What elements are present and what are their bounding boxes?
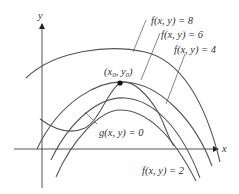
leader-f-8 bbox=[133, 20, 146, 52]
level-curve-f-6 bbox=[37, 82, 212, 166]
y-axis-label: y bbox=[37, 10, 43, 21]
label-g: g(x, y) = 0 bbox=[99, 127, 144, 139]
leader-f-4 bbox=[166, 54, 185, 104]
label-f-6: f(x, y) = 6 bbox=[161, 29, 204, 41]
label-f-8: f(x, y) = 8 bbox=[151, 15, 194, 27]
tangency-point bbox=[117, 80, 122, 85]
label-f-4: f(x, y) = 4 bbox=[174, 44, 217, 56]
x-axis-label: x bbox=[221, 143, 227, 154]
tangency-point-label: (x0, y0) bbox=[104, 66, 133, 79]
lagrange-level-curves-diagram: y x f(x, y) = 8 f(x, y) = 6 f(x, y) = 4 … bbox=[0, 0, 239, 194]
label-f-2: f(x, y) = 2 bbox=[142, 165, 185, 177]
